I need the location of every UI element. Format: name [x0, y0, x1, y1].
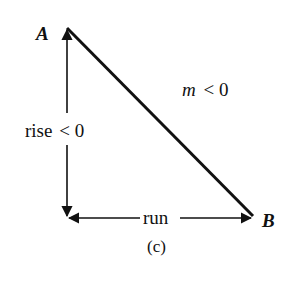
vertex-b-label: B [262, 211, 275, 230]
run-label: run [143, 208, 168, 227]
vertex-a-label: A [36, 24, 49, 43]
slope-variable: m [182, 79, 196, 100]
rise-relation: < 0 [59, 120, 84, 141]
hypotenuse-line [67, 28, 253, 216]
triangle-svg [0, 0, 285, 294]
rise-text: rise [25, 120, 52, 141]
slope-label: m < 0 [182, 80, 228, 99]
figure-caption: (c) [147, 238, 166, 255]
slope-relation: < 0 [203, 79, 228, 100]
slope-triangle-diagram: A B rise < 0 m < 0 run (c) [0, 0, 285, 294]
rise-label: rise < 0 [25, 121, 84, 140]
